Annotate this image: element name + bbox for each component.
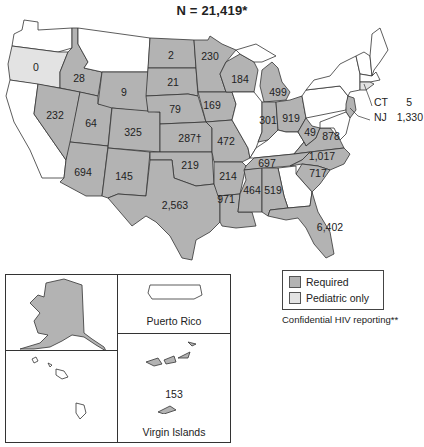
legend: Required Pediatric only — [282, 270, 384, 310]
hawaii-islands — [32, 357, 86, 419]
value-ks: 287† — [178, 132, 202, 144]
legend-item-required: Required — [289, 276, 349, 288]
value-ok: 219 — [181, 159, 199, 171]
value-wy: 9 — [121, 86, 127, 98]
value-ia: 169 — [203, 99, 221, 111]
legend-label-required: Required — [306, 276, 349, 288]
callout-nj-abbr: NJ — [374, 111, 387, 123]
inset-virgin-islands: 153 Virgin Islands — [117, 333, 231, 443]
state-me[interactable] — [370, 28, 388, 76]
legend-label-pediatric: Pediatric only — [306, 292, 369, 304]
inset-alaska — [5, 274, 119, 352]
value-fl: 6,402 — [317, 221, 343, 233]
state-pa[interactable] — [302, 86, 348, 118]
inset-hawaii — [5, 350, 119, 443]
puerto-rico-label: Puerto Rico — [118, 315, 230, 327]
value-az: 694 — [74, 166, 92, 178]
value-or: 0 — [33, 61, 39, 73]
value-nd: 2 — [168, 49, 174, 61]
value-sc: 717 — [309, 167, 327, 179]
value-ms: 464 — [243, 184, 261, 196]
virgin-islands-label: Virgin Islands — [118, 426, 230, 438]
value-nc: 1,017 — [309, 150, 335, 162]
value-mn: 230 — [201, 50, 219, 62]
value-mo: 472 — [217, 135, 235, 147]
value-sd: 21 — [167, 76, 179, 88]
value-va: 878 — [322, 130, 340, 142]
value-nm: 145 — [115, 170, 133, 182]
callout-nj-value: 1,330 — [397, 111, 423, 123]
value-wi: 184 — [231, 73, 249, 85]
legend-swatch-required — [289, 276, 301, 288]
value-mi: 499 — [269, 86, 287, 98]
value-oh: 919 — [282, 112, 300, 124]
value-in: 301 — [259, 114, 277, 126]
state-mt[interactable] — [78, 28, 150, 72]
value-al: 519 — [264, 184, 282, 196]
value-ut: 64 — [85, 117, 97, 129]
inset-puerto-rico: Puerto Rico — [117, 274, 231, 335]
value-tx: 2,563 — [162, 199, 188, 211]
puerto-rico-shape — [148, 285, 202, 299]
legend-swatch-pediatric — [289, 292, 301, 304]
value-ar: 214 — [219, 170, 237, 182]
value-nv: 232 — [46, 109, 64, 121]
legend-item-pediatric: Pediatric only — [289, 292, 369, 304]
callout-ct-value: 5 — [406, 96, 412, 108]
value-tn: 697 — [258, 157, 276, 169]
state-ct[interactable] — [360, 82, 374, 90]
virgin-islands-shape — [146, 342, 196, 414]
state-ak[interactable] — [20, 279, 106, 351]
value-id: 28 — [73, 72, 85, 84]
us-map: 0 28 232 64 9 325 694 145 2 21 79 287† 2… — [0, 0, 424, 270]
value-wv: 49 — [304, 126, 316, 138]
value-co: 325 — [124, 126, 142, 138]
value-la: 971 — [217, 193, 235, 205]
value-ne: 79 — [169, 103, 181, 115]
callout-ct-abbr: CT — [374, 96, 389, 108]
legend-note: Confidential HIV reporting** — [282, 314, 398, 325]
virgin-islands-value: 153 — [118, 388, 230, 400]
